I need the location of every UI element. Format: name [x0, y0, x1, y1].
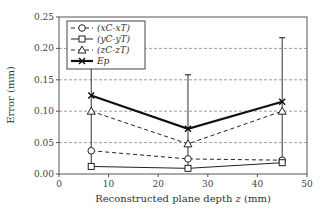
- y-tick-label: 0.00: [34, 169, 54, 179]
- square-marker: [185, 165, 191, 171]
- triangle-marker: [278, 107, 286, 114]
- legend-label: Ep: [96, 56, 110, 66]
- x-axis-label: Reconstructed plane depth z (mm): [95, 193, 271, 204]
- y-axis-label: Error (mm): [5, 66, 16, 124]
- legend-label: (zC-zT): [97, 45, 130, 55]
- square-marker: [88, 163, 94, 169]
- y-tick-label: 0.25: [34, 12, 54, 22]
- series-ep: [88, 93, 285, 132]
- legend-label: (xC-xT): [97, 23, 131, 33]
- x-tick-label: 30: [202, 179, 214, 189]
- square-marker: [279, 160, 285, 166]
- y-tick-label: 0.15: [34, 75, 54, 85]
- legend: (xC-xT)(yC-yT)(zC-zT)Ep: [67, 21, 145, 69]
- circle-marker: [88, 147, 95, 154]
- circle-marker: [185, 156, 192, 163]
- y-tick-label: 0.10: [34, 106, 54, 116]
- y-tick-label: 0.05: [34, 138, 54, 148]
- x-tick-label: 40: [252, 179, 264, 189]
- x-tick-label: 20: [152, 179, 164, 189]
- square-marker: [79, 36, 85, 42]
- legend-item: (yC-yT): [71, 34, 131, 44]
- error-chart: 0.000.050.100.150.200.2501020304050 Reco…: [0, 0, 325, 214]
- series-xcxt: [88, 147, 286, 163]
- circle-marker: [79, 25, 86, 32]
- x-tick-label: 50: [301, 179, 313, 189]
- x-tick-label: 10: [103, 179, 115, 189]
- legend-label: (yC-yT): [97, 34, 131, 44]
- x-tick-label: 0: [56, 179, 62, 189]
- triangle-marker: [87, 107, 95, 114]
- y-tick-label: 0.20: [34, 43, 54, 53]
